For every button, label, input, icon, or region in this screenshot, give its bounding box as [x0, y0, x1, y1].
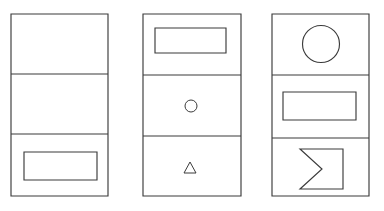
panel-2-cell-3[interactable] [143, 136, 241, 196]
panel-1-cell-2-hitbox[interactable] [11, 74, 108, 134]
panel-2[interactable] [143, 14, 241, 196]
panel-1-cell-3-hitbox[interactable] [11, 134, 108, 196]
panel-2-cell-1[interactable] [143, 14, 241, 75]
panel-2-cell-2-hitbox[interactable] [143, 75, 241, 136]
shape-matrix-canvas [0, 0, 384, 211]
panel-3-cell-1-hitbox[interactable] [272, 14, 369, 75]
panel-3-cell-1[interactable] [272, 14, 369, 75]
panel-3-cell-2-hitbox[interactable] [272, 75, 369, 138]
panel-3-cell-3[interactable] [272, 138, 369, 196]
panel-1-cell-1-hitbox[interactable] [11, 14, 108, 74]
panel-1-cell-3[interactable] [11, 134, 108, 196]
panel-2-cell-2[interactable] [143, 75, 241, 136]
figure-root: Three-panel geometric shape matrix [0, 0, 384, 211]
panel-1[interactable] [11, 14, 108, 196]
panel-1-cell-1[interactable] [11, 14, 108, 74]
panel-3-cell-2[interactable] [272, 75, 369, 138]
panel-3[interactable] [272, 14, 369, 196]
panel-1-cell-2[interactable] [11, 74, 108, 134]
